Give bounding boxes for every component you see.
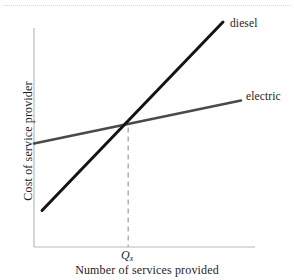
- series-line-electric: [34, 101, 241, 144]
- series-label-diesel: diesel: [230, 18, 257, 30]
- series-line-diesel: [42, 22, 223, 211]
- chart-figure: diesel electric Qx Number of services pr…: [0, 0, 294, 280]
- x-tick-label-qx: Qx: [121, 249, 133, 263]
- series-label-electric: electric: [246, 91, 281, 103]
- x-axis-title: Number of services provided: [75, 264, 219, 276]
- x-tick-label-qx-subscript: x: [130, 254, 134, 263]
- plot-canvas: [0, 0, 294, 280]
- y-axis-title: Cost of service provider: [22, 61, 34, 221]
- x-tick-label-qx-base: Q: [121, 248, 130, 262]
